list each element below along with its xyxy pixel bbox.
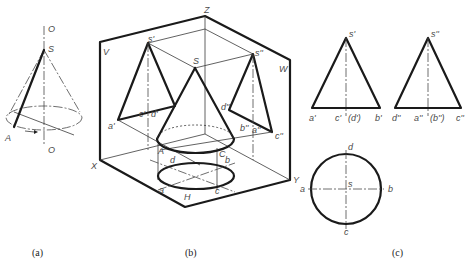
label-plane-h: H bbox=[184, 192, 191, 202]
front-view-label-4: b' bbox=[375, 113, 382, 123]
projection-box-outline bbox=[100, 16, 290, 207]
top-view-label-a: a bbox=[300, 184, 305, 194]
front-view-apex-label: s' bbox=[349, 29, 356, 39]
arrow-head-icon bbox=[34, 130, 38, 134]
x-axis-line bbox=[100, 134, 205, 160]
label-side-apex: s'' bbox=[255, 48, 263, 58]
top-view-label-b: b bbox=[388, 184, 393, 194]
label-front-a: a' bbox=[108, 121, 115, 131]
side-view-label-2: a'' bbox=[414, 113, 423, 123]
subfigure-c-three-views: s' a' c' (d') b' s'' d'' a'' (b'') c'' d… bbox=[300, 29, 464, 237]
cone-right-edge bbox=[44, 50, 80, 112]
label-top-a: a bbox=[159, 185, 164, 195]
label-top-b: b bbox=[225, 155, 230, 165]
label-side-a: a'' bbox=[252, 125, 261, 135]
label-base-A: A bbox=[157, 146, 164, 156]
side-view-apex-label: s'' bbox=[431, 29, 439, 39]
label-z: Z bbox=[203, 5, 210, 15]
label-x: X bbox=[90, 161, 98, 171]
label-front-d: d' bbox=[151, 109, 158, 119]
front-view-label-2: c' bbox=[335, 113, 342, 123]
label-apex-S: S bbox=[193, 56, 199, 66]
label-side-d: d'' bbox=[221, 102, 230, 112]
caption-a: (a) bbox=[32, 247, 43, 259]
projector-s-front bbox=[148, 43, 195, 68]
top-view-label-s: s bbox=[348, 179, 353, 189]
top-view-label-c: c bbox=[344, 227, 349, 237]
cone-projection-figure: O S A O Z bbox=[0, 0, 466, 267]
label-side-b: b'' bbox=[240, 123, 249, 133]
label-front-c: c' bbox=[139, 109, 146, 119]
label-plane-w: W bbox=[279, 64, 289, 74]
projector-s-side bbox=[195, 54, 253, 68]
label-apex: S bbox=[48, 44, 54, 54]
cone-base-back bbox=[157, 125, 234, 139]
label-side-c: c'' bbox=[275, 131, 283, 141]
label-plane-v: V bbox=[103, 47, 110, 57]
label-y: Y bbox=[293, 175, 300, 185]
label-generatrix-end: A bbox=[4, 133, 11, 143]
caption-c: (c) bbox=[392, 247, 403, 259]
label-front-apex: s' bbox=[148, 34, 155, 44]
side-view-label-4: c'' bbox=[456, 113, 464, 123]
subfigure-a-rotating-cone: O S A O bbox=[4, 24, 82, 155]
subfigure-b-projection-planes: Z V W X Y H S s' s'' a' c' d' d'' b'' a'… bbox=[90, 5, 300, 207]
label-axis-bottom: O bbox=[48, 145, 55, 155]
side-view-label-3: (b'') bbox=[430, 113, 444, 123]
label-top-c: c bbox=[215, 186, 220, 196]
front-projection-triangle bbox=[118, 43, 175, 120]
generatrix-SA bbox=[14, 50, 44, 127]
front-view-label-1: a' bbox=[309, 113, 316, 123]
side-projection-triangle bbox=[229, 54, 272, 132]
front-view-label-3: (d') bbox=[348, 113, 361, 123]
side-view-label-1: d'' bbox=[392, 113, 401, 123]
caption-b: (b) bbox=[185, 247, 197, 259]
label-top-d: d bbox=[170, 155, 176, 165]
top-view-label-d: d bbox=[348, 142, 354, 152]
label-axis-top: O bbox=[48, 24, 55, 34]
rotation-arrow bbox=[25, 131, 34, 132]
